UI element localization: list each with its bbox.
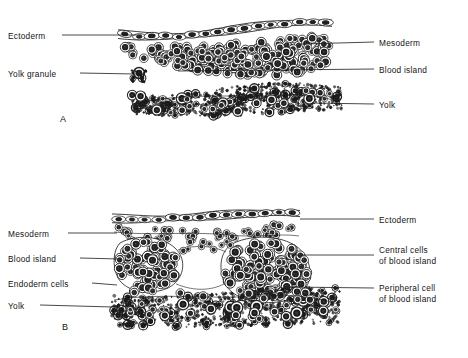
label-ectoderm-a: Ectoderm bbox=[8, 31, 46, 42]
label-blood-island-a: Blood island bbox=[379, 65, 427, 76]
leader-b-endoderm-cells bbox=[92, 283, 117, 285]
leader-b-yolk bbox=[40, 305, 113, 307]
label-mesoderm-b: Mesoderm bbox=[8, 229, 49, 240]
panel-letter-b: B bbox=[62, 322, 68, 332]
leader-a-yolk-granule bbox=[80, 73, 136, 74]
label-yolk-granule-a: Yolk granule bbox=[8, 69, 56, 80]
label-endoderm-cells-b: Endoderm cells bbox=[8, 279, 69, 290]
label-central-cells-b: Central cells of blood island bbox=[379, 245, 436, 267]
label-ectoderm-b: Ectoderm bbox=[379, 215, 417, 226]
label-yolk-b: Yolk bbox=[8, 301, 24, 312]
label-mesoderm-a: Mesoderm bbox=[379, 38, 420, 49]
panel-letter-a: A bbox=[60, 114, 66, 124]
label-peripheral-cell-b: Peripheral cell of blood island bbox=[379, 283, 436, 305]
label-yolk-a: Yolk bbox=[379, 100, 395, 111]
label-blood-island-b: Blood island bbox=[8, 254, 56, 265]
